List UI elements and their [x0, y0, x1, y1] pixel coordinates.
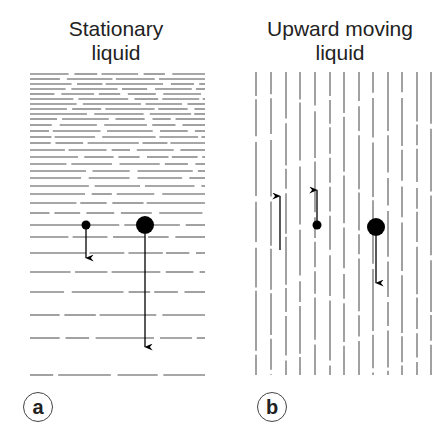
panel-b-streamlines	[256, 72, 431, 375]
panel-b-label: b	[257, 392, 287, 422]
small-particle	[313, 221, 322, 230]
small-particle	[82, 221, 91, 230]
panel-a-label: a	[23, 392, 53, 422]
sedimentation-diagram	[0, 0, 448, 439]
large-particle	[367, 218, 385, 236]
large-particle	[136, 216, 154, 234]
panel-a-streamlines	[30, 74, 205, 375]
